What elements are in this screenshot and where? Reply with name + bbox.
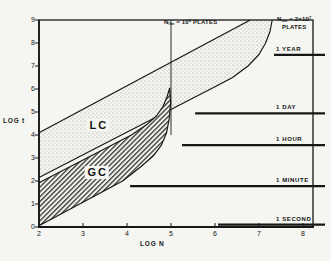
y-tick-label: 9 [22,16,35,24]
y-tick-label: 3 [22,154,35,162]
chromatography-speed-figure: LOG t LOG N 234567801234567891 YEAR1 DAY… [0,0,331,261]
y-tick-label: 8 [22,39,35,47]
annotation-nlim2: Nlim = 2×107PLATES [277,16,311,31]
time-line-label-1-year: 1 YEAR [276,46,301,53]
y-tick-label: 0 [22,223,35,231]
x-tick-label: 5 [169,230,173,238]
lc-band [39,20,272,178]
band-label-lc: LC [87,119,110,131]
y-tick-label: 7 [22,62,35,70]
y-axis-label: LOG t [3,117,25,124]
x-tick-label: 2 [37,230,41,238]
y-tick-label: 1 [22,200,35,208]
x-tick-label: 3 [81,230,85,238]
y-tick-label: 2 [22,177,35,185]
time-line-label-1-hour: 1 HOUR [276,136,302,143]
time-line-label-1-minute: 1 MINUTE [276,177,309,184]
x-tick-label: 7 [257,230,261,238]
y-tick-label: 6 [22,85,35,93]
annotation-nlim1: Nlim = 105 PLATES [164,19,217,26]
x-axis-label: LOG N [140,240,165,247]
band-label-gc: GC [84,166,109,178]
time-line-label-1-second: 1 SECOND [276,216,311,223]
x-tick-label: 6 [213,230,217,238]
y-tick-label: 4 [22,131,35,139]
time-line-label-1-day: 1 DAY [276,104,296,111]
y-tick-label: 5 [22,108,35,116]
x-tick-label: 8 [301,230,305,238]
x-tick-label: 4 [125,230,129,238]
